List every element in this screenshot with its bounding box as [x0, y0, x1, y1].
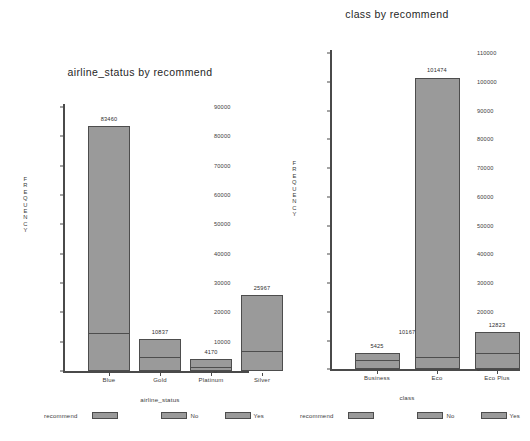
y-tick-mark [60, 283, 63, 284]
x-tick-label: Business [364, 375, 390, 381]
y-tick-label: 100000 [477, 79, 530, 85]
y-tick-mark [327, 196, 330, 197]
y-tick-mark [60, 341, 63, 342]
y-tick-label: 110000 [477, 50, 530, 56]
bar-value-label: 5425 [370, 343, 383, 349]
x-tick-mark [262, 373, 263, 376]
x-tick-mark [109, 373, 110, 376]
legend-label: Yes [254, 413, 264, 419]
y-axis-line-left [63, 104, 65, 372]
x-axis-title-right: class [377, 394, 437, 401]
legend-item-yes[interactable]: Yes [225, 412, 264, 419]
y-tick-label: 70000 [477, 165, 530, 171]
y-tick-mark [60, 195, 63, 196]
y-tick-label: 50000 [477, 223, 530, 229]
y-tick-mark [60, 312, 63, 313]
y-tick-mark [327, 254, 330, 255]
y-tick-label: 20000 [477, 309, 530, 315]
y-tick-mark [327, 369, 330, 370]
legend-left: recommend No Yes [44, 412, 264, 419]
y-tick-label: 30000 [477, 280, 530, 286]
chart-panel-airline-status: airline_status by recommend F R E Q U E … [0, 0, 272, 441]
legend-title: recommend [44, 413, 77, 419]
bar-business [355, 353, 400, 369]
x-tick-mark [211, 373, 212, 376]
y-tick-mark [327, 311, 330, 312]
chart-panel-class: class by recommend F R E Q U E N C Y 110… [272, 0, 530, 441]
x-tick-label: Platinum [199, 377, 224, 383]
y-tick-label: 40000 [214, 251, 272, 257]
y-tick-mark [60, 136, 63, 137]
bar-blue [88, 126, 130, 371]
bar-platinum [190, 359, 232, 371]
bar-value-label: 4170 [204, 349, 217, 355]
bar-value-label: 25967 [254, 285, 271, 291]
bar-segment-divider [356, 360, 399, 361]
y-tick-label: 80000 [214, 133, 272, 139]
y-tick-label: 80000 [477, 136, 530, 142]
legend-item-no[interactable]: No [161, 412, 198, 419]
legend-swatch [161, 412, 187, 419]
bar-value-label-secondary: 10167 [399, 329, 416, 335]
bar-segment-divider [416, 357, 459, 358]
legend-swatch [417, 412, 443, 419]
legend-swatch [225, 412, 251, 419]
bar-value-label: 10837 [152, 329, 169, 335]
legend-swatch [92, 412, 118, 419]
legend-label: Yes [510, 413, 520, 419]
y-tick-mark [60, 253, 63, 254]
bar-eco-plus [475, 332, 520, 369]
legend-item-yes[interactable]: Yes [481, 412, 520, 419]
legend-label: No [446, 413, 454, 419]
legend-item-blank[interactable] [348, 412, 377, 419]
bar-segment-divider [89, 333, 129, 334]
y-tick-label: 50000 [214, 221, 272, 227]
y-tick-label: 40000 [477, 251, 530, 257]
x-tick-mark [377, 371, 378, 374]
x-tick-mark [497, 371, 498, 374]
bar-gold [139, 339, 181, 371]
legend-title: recommend [300, 413, 333, 419]
y-tick-mark [327, 110, 330, 111]
y-tick-label: 60000 [477, 194, 530, 200]
legend-swatch [348, 412, 374, 419]
legend-item-no[interactable]: No [417, 412, 454, 419]
legend-item-blank[interactable] [92, 412, 121, 419]
y-tick-mark [60, 371, 63, 372]
y-tick-mark [327, 340, 330, 341]
plot-area-left: 90000 80000 70000 60000 50000 40000 3000… [0, 0, 272, 441]
plot-area-right: 110000 100000 90000 80000 70000 60000 50… [272, 0, 530, 441]
bar-value-label: 83460 [101, 116, 118, 122]
bar-segment-divider [140, 357, 180, 358]
bar-eco [415, 78, 460, 370]
legend-swatch [481, 412, 507, 419]
y-tick-mark [327, 139, 330, 140]
y-tick-label: 60000 [214, 192, 272, 198]
x-tick-label: Silver [254, 377, 270, 383]
y-tick-mark [327, 168, 330, 169]
x-tick-label: Blue [103, 377, 116, 383]
y-tick-mark [327, 53, 330, 54]
x-tick-mark [437, 371, 438, 374]
x-tick-label: Gold [153, 377, 166, 383]
x-axis-title-left: airline_status [100, 396, 220, 403]
legend-right: recommend No Yes [300, 412, 520, 419]
x-tick-label: Eco Plus [484, 375, 509, 381]
bar-segment-divider [191, 367, 231, 368]
x-tick-mark [160, 373, 161, 376]
y-tick-label: 90000 [214, 104, 272, 110]
bar-value-label: 12823 [489, 322, 506, 328]
bar-value-label: 101474 [427, 67, 447, 73]
y-tick-label: 90000 [477, 108, 530, 114]
x-tick-label: Eco [432, 375, 443, 381]
y-tick-label: 70000 [214, 163, 272, 169]
y-tick-mark [60, 107, 63, 108]
bar-segment-divider [476, 353, 519, 354]
y-axis-line-right [330, 50, 332, 371]
y-tick-mark [327, 225, 330, 226]
legend-label: No [190, 413, 198, 419]
y-tick-mark [60, 165, 63, 166]
y-tick-mark [327, 81, 330, 82]
y-tick-mark [327, 283, 330, 284]
y-tick-mark [60, 224, 63, 225]
